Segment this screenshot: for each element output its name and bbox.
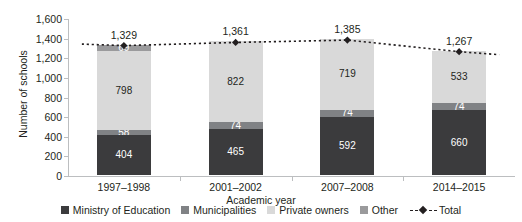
x-axis-separator [403,176,404,181]
bar-segment[interactable]: 404 [97,135,151,175]
y-axis-tick-label: 200 [2,150,62,162]
legend-label: Other [372,204,398,216]
bar-segment[interactable]: 719 [320,39,374,110]
total-data-label: 1,329 [111,29,137,41]
x-axis-category-label: 1997–1998 [98,181,151,193]
y-axis-tick-mark [64,19,68,20]
bar-segment-label: 58 [118,130,129,136]
y-axis-tick-label: 600 [2,111,62,123]
bar-segment[interactable]: 533 [432,51,486,103]
chart-legend: Ministry of EducationMunicipalitiesPriva… [0,204,522,216]
x-axis-category-label: 2007–2008 [321,181,374,193]
legend-item[interactable]: Total [409,204,461,216]
x-axis-category-label: 2001–2002 [209,181,262,193]
bar-segment[interactable]: 74 [209,122,263,129]
y-axis-tick-label: 1,200 [2,52,62,64]
y-axis-tick-label: 1,000 [2,72,62,84]
y-axis-tick-mark [64,58,68,59]
x-axis-separator [292,176,293,181]
bar-segment-label: 69 [118,45,129,52]
bar-segment-label: 660 [451,138,468,148]
y-axis-tick-mark [64,39,68,40]
legend-line-marker-icon [409,206,435,215]
bar-segment-label: 719 [339,69,356,79]
bar-segment[interactable]: 822 [209,41,263,122]
bar-segment-label: 798 [116,86,133,96]
bar-segment-label: 74 [230,122,241,129]
legend-swatch-icon [267,206,275,214]
legend-item[interactable]: Other [360,204,398,216]
y-axis-line [68,19,69,177]
bar-segment-label: 74 [454,103,465,110]
bar-segment[interactable]: 798 [97,51,151,129]
total-data-label: 1,385 [334,23,360,35]
bar-segment[interactable]: 58 [97,130,151,136]
legend-label: Total [439,204,461,216]
total-data-label: 1,361 [222,25,248,37]
bar-segment[interactable]: 74 [320,110,374,117]
y-axis-tick-mark [64,176,68,177]
bar-segment-label: 74 [342,110,353,117]
plot-area: 02004006008001,0001,2001,4001,600 404587… [68,19,515,176]
y-axis-tick-label: 800 [2,92,62,104]
legend-swatch-icon [61,206,69,214]
y-axis-tick-mark [64,156,68,157]
y-axis-tick-mark [64,117,68,118]
legend-swatch-icon [181,206,189,214]
legend-item[interactable]: Private owners [267,204,348,216]
legend-label: Municipalities [193,204,256,216]
bar-stack[interactable]: 46574822 [209,18,263,175]
bar-segment[interactable]: 660 [432,110,486,175]
total-data-label: 1,267 [446,35,472,47]
y-axis-tick-label: 0 [2,170,62,182]
x-axis-category-label: 2014–2015 [433,181,486,193]
bar-segment[interactable]: 592 [320,117,374,175]
total-line-path [124,40,459,52]
bar-segment-label: 533 [451,72,468,82]
y-axis-tick-mark [64,78,68,79]
y-axis-tick-label: 1,600 [2,13,62,25]
legend-item[interactable]: Municipalities [181,204,256,216]
bar-segment[interactable]: 74 [432,103,486,110]
y-axis-tick-mark [64,137,68,138]
legend-item[interactable]: Ministry of Education [61,204,170,216]
x-axis-separator [180,176,181,181]
y-axis-tick-mark [64,98,68,99]
legend-swatch-icon [360,206,368,214]
bar-segment-label: 592 [339,141,356,151]
bar-segment[interactable]: 69 [97,45,151,52]
chart-container: Number of schools 02004006008001,0001,20… [0,0,522,222]
bar-stack[interactable]: 59274719 [320,18,374,175]
legend-label: Ministry of Education [73,204,170,216]
bar-segment-label: 404 [116,150,133,160]
bar-segment-label: 822 [227,77,244,87]
bar-segment-label: 465 [227,147,244,157]
bar-stack[interactable]: 4045879869 [97,18,151,175]
legend-label: Private owners [279,204,348,216]
y-axis-tick-label: 1,400 [2,33,62,45]
bar-segment[interactable]: 465 [209,129,263,175]
y-axis-tick-label: 400 [2,131,62,143]
